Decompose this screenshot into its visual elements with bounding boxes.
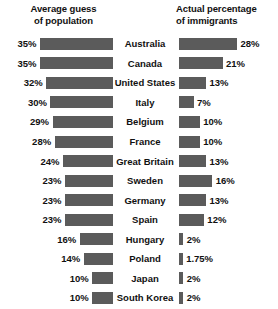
right-series-cell: 13%	[179, 190, 278, 210]
left-value-label: 23%	[43, 195, 62, 206]
left-value-label: 23%	[43, 175, 62, 186]
left-value-label: 23%	[43, 214, 62, 225]
right-bar	[179, 292, 183, 304]
left-value-label: 14%	[61, 253, 80, 264]
chart-row: 23%Spain12%	[0, 210, 278, 230]
right-value-label: 10%	[203, 116, 222, 127]
country-label: Germany	[113, 190, 177, 210]
right-bar	[179, 136, 200, 148]
left-series-cell: 32%	[0, 73, 113, 93]
left-bar	[40, 57, 113, 69]
chart-row: 23%Sweden16%	[0, 171, 278, 191]
right-series-cell: 2%	[179, 288, 278, 308]
country-label: France	[113, 132, 177, 152]
left-series-title-line2: of population	[34, 15, 93, 26]
right-value-label: 13%	[209, 156, 228, 167]
left-bar	[40, 38, 113, 50]
left-value-label: 35%	[17, 38, 36, 49]
left-bar	[92, 292, 113, 304]
chart-row: 10%South Korea2%	[0, 288, 278, 308]
right-series-cell: 21%	[179, 54, 278, 74]
left-series-title-line1: Average guess	[31, 3, 97, 14]
chart-row: 29%Belgium10%	[0, 112, 278, 132]
left-bar	[55, 136, 113, 148]
left-value-label: 35%	[17, 58, 36, 69]
chart-row: 10%Japan2%	[0, 269, 278, 289]
right-bar	[179, 233, 183, 245]
left-series-cell: 29%	[0, 112, 113, 132]
chart-row: 28%France10%	[0, 132, 278, 152]
right-value-label: 13%	[209, 195, 228, 206]
right-series-cell: 13%	[179, 151, 278, 171]
right-series-cell: 13%	[179, 73, 278, 93]
country-label: Belgium	[113, 112, 177, 132]
chart-rows: 35%Australia28%35%Canada21%32%United Sta…	[0, 34, 278, 308]
left-series-cell: 28%	[0, 132, 113, 152]
left-series-title: Average guess of population	[14, 3, 113, 26]
right-series-cell: 12%	[179, 210, 278, 230]
right-series-cell: 1.75%	[179, 249, 278, 269]
country-label: Japan	[113, 269, 177, 289]
left-series-cell: 35%	[0, 54, 113, 74]
chart-row: 23%Germany13%	[0, 190, 278, 210]
right-value-label: 2%	[187, 273, 201, 284]
left-series-cell: 10%	[0, 269, 113, 289]
left-bar	[80, 233, 113, 245]
left-series-cell: 23%	[0, 171, 113, 191]
chart-row: 14%Poland1.75%	[0, 249, 278, 269]
right-bar	[179, 155, 206, 167]
right-value-label: 2%	[187, 292, 201, 303]
right-bar	[179, 272, 183, 284]
left-series-cell: 35%	[0, 34, 113, 54]
right-series-cell: 2%	[179, 229, 278, 249]
right-value-label: 28%	[241, 38, 260, 49]
left-series-cell: 14%	[0, 249, 113, 269]
right-bar	[179, 253, 183, 265]
immigration-perception-chart: Average guess of population Actual perce…	[0, 0, 278, 309]
right-series-cell: 2%	[179, 269, 278, 289]
right-bar	[179, 96, 194, 108]
left-bar	[84, 253, 113, 265]
right-bar	[179, 116, 200, 128]
right-series-cell: 16%	[179, 171, 278, 191]
right-value-label: 21%	[226, 58, 245, 69]
left-bar	[50, 96, 113, 108]
right-value-label: 1.75%	[186, 253, 213, 264]
left-value-label: 28%	[32, 136, 51, 147]
chart-row: 35%Canada21%	[0, 54, 278, 74]
right-series-title-line1: Actual percentage	[176, 3, 257, 14]
left-series-cell: 30%	[0, 93, 113, 113]
left-value-label: 24%	[40, 156, 59, 167]
country-label: Sweden	[113, 171, 177, 191]
left-bar	[65, 194, 113, 206]
country-label: Poland	[113, 249, 177, 269]
right-value-label: 13%	[209, 77, 228, 88]
left-value-label: 29%	[30, 116, 49, 127]
right-bar	[179, 214, 204, 226]
right-value-label: 16%	[216, 175, 235, 186]
chart-row: 32%United States13%	[0, 73, 278, 93]
left-value-label: 10%	[70, 292, 89, 303]
left-series-cell: 23%	[0, 210, 113, 230]
right-value-label: 10%	[203, 136, 222, 147]
left-bar	[63, 155, 113, 167]
country-label: Spain	[113, 210, 177, 230]
left-series-cell: 24%	[0, 151, 113, 171]
right-series-title-line2: of immigrants	[176, 15, 238, 26]
country-label: Italy	[113, 93, 177, 113]
chart-header: Average guess of population Actual perce…	[0, 0, 278, 34]
right-bar	[179, 57, 223, 69]
right-series-cell: 7%	[179, 93, 278, 113]
left-value-label: 16%	[57, 234, 76, 245]
left-bar	[53, 116, 113, 128]
right-series-cell: 28%	[179, 34, 278, 54]
right-bar	[179, 175, 212, 187]
left-value-label: 10%	[70, 273, 89, 284]
right-series-cell: 10%	[179, 132, 278, 152]
right-bar	[179, 77, 206, 89]
country-label: Australia	[113, 34, 177, 54]
country-label: Great Britain	[113, 151, 177, 171]
left-bar	[92, 272, 113, 284]
right-series-title: Actual percentage of immigrants	[176, 3, 276, 26]
right-value-label: 12%	[207, 214, 226, 225]
